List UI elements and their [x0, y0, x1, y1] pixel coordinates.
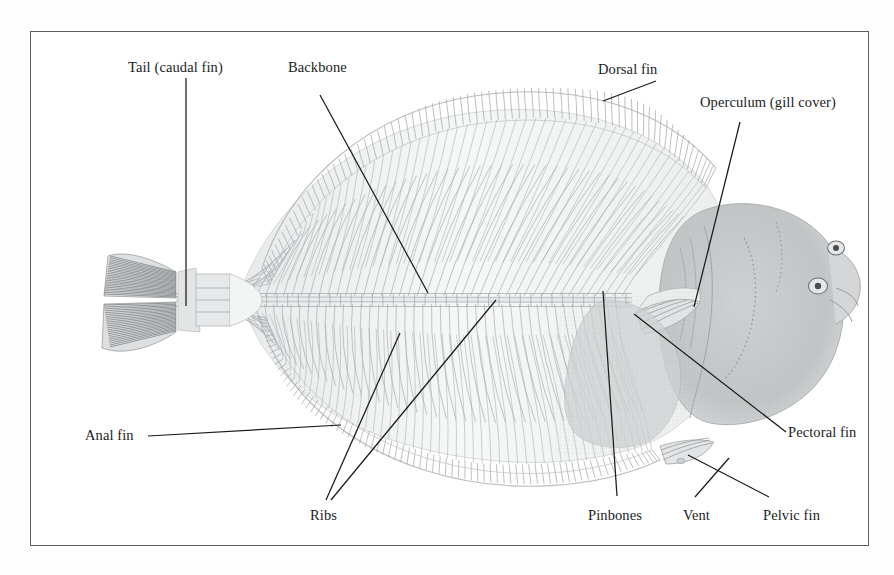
pectoral-leader [634, 314, 786, 432]
backbone-leader [320, 95, 428, 293]
figure-page: Tail (caudal fin) Backbone Dorsal fin Op… [0, 0, 894, 575]
label-anal-fin: Anal fin [85, 428, 134, 443]
label-vent: Vent [683, 508, 710, 523]
dorsal-leader [603, 81, 656, 101]
label-tail: Tail (caudal fin) [128, 60, 223, 75]
operculum-leader [694, 122, 740, 307]
ribs-leader-a [326, 333, 400, 500]
label-backbone: Backbone [288, 60, 347, 75]
label-ribs: Ribs [310, 508, 337, 523]
pinbones-leader [603, 291, 617, 496]
label-pectoral-fin: Pectoral fin [788, 425, 856, 440]
anal-leader [148, 425, 341, 436]
label-pinbones: Pinbones [588, 508, 642, 523]
label-dorsal-fin: Dorsal fin [598, 62, 657, 77]
label-pelvic-fin: Pelvic fin [763, 508, 820, 523]
leader-line-layer [0, 0, 894, 575]
label-operculum: Operculum (gill cover) [700, 95, 836, 110]
vent-leader [695, 458, 729, 497]
ribs-leader-b [331, 300, 496, 500]
